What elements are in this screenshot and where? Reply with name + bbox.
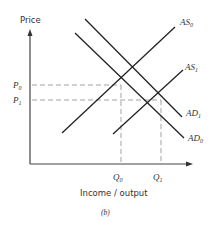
ad0-curve [75, 33, 184, 138]
x-axis-label: Income / output [80, 188, 148, 198]
p1-label: P1 [12, 95, 22, 106]
as1-label: AS1 [184, 62, 198, 73]
figure-caption: (b) [101, 208, 110, 217]
y-axis-label: Price [20, 15, 41, 25]
p0-label: P0 [12, 80, 22, 91]
as0-curve [62, 27, 175, 133]
as0-label: AS0 [179, 17, 193, 28]
y-axis-arrow-icon [28, 29, 33, 36]
q0-label: Q0 [113, 172, 123, 183]
ad-as-diagram: Price Income / output (b) P0 P1 Q0 Q1 AS… [0, 0, 217, 229]
x-axis-arrow-icon [186, 162, 193, 167]
ad0-label: AD0 [187, 133, 203, 144]
ad1-label: AD1 [185, 108, 201, 119]
q1-label: Q1 [153, 172, 163, 183]
